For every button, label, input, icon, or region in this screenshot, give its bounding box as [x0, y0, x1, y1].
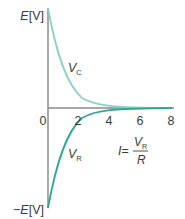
x-tick-4: 4	[106, 114, 113, 128]
x-tick-0: 0	[40, 114, 47, 128]
vr-label: VR	[68, 147, 82, 163]
rc-circuit-chart: E[V] −E[V] 0 2 4 6 8 VC VR I= VR R	[0, 0, 185, 219]
x-tick-2: 2	[75, 114, 82, 128]
eq-numerator: VR	[134, 135, 147, 150]
y-top-label: E[V]	[20, 9, 44, 23]
vc-label: VC	[68, 61, 82, 77]
vc-curve	[48, 8, 172, 108]
ohms-law-equation: I= VR R	[118, 135, 148, 167]
x-tick-6: 6	[137, 114, 144, 128]
y-bottom-label: −E[V]	[13, 203, 44, 217]
eq-denominator: R	[137, 153, 146, 167]
x-tick-8: 8	[168, 114, 175, 128]
eq-lhs: I=	[118, 144, 129, 158]
